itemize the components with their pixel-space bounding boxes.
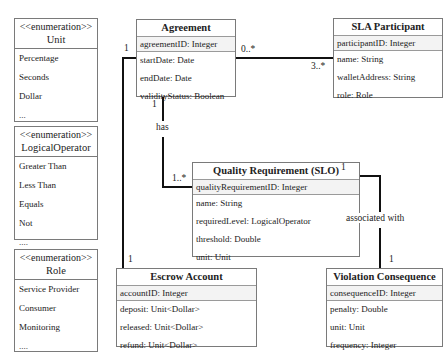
enum-literal: Percentage	[15, 49, 97, 68]
class-attribute: released: Unit<Dollar>	[117, 319, 256, 337]
enum-logical-operator: <<enumeration>> LogicalOperator Greater …	[14, 126, 98, 240]
class-attribute: role: Role	[334, 87, 442, 105]
class-agreement: Agreement agreementID: Integer startDate…	[136, 19, 236, 97]
class-id-attribute: consequenceID: Integer	[327, 286, 442, 301]
enum-literal: Equals	[15, 195, 97, 214]
class-quality-requirement: Quality Requirement (SLO) qualityRequire…	[192, 162, 360, 257]
enum-literal: Dollar	[15, 87, 97, 106]
enum-literal: Less Than	[15, 176, 97, 195]
class-id-attribute: accountID: Integer	[117, 286, 256, 301]
class-id-attribute: qualityRequirementID: Integer	[193, 180, 359, 195]
class-attribute: endDate: Date	[137, 70, 235, 88]
enum-stereotype: <<enumeration>>	[15, 19, 97, 33]
enum-name: Unit	[15, 33, 97, 49]
enum-literal: Not	[15, 214, 97, 233]
class-name: Quality Requirement (SLO)	[193, 163, 359, 180]
enum-stereotype: <<enumeration>>	[15, 127, 97, 141]
association-agreement-escrow	[123, 58, 136, 268]
multiplicity-quality-violation-target: 1	[389, 254, 394, 264]
enum-name: LogicalOperator	[15, 141, 97, 157]
enum-literal: ...	[15, 106, 97, 125]
class-attribute: name: String	[334, 51, 442, 69]
enum-literal: Greater Than	[15, 157, 97, 176]
association-label-has: has	[155, 122, 170, 132]
enum-literal: Monitoring	[15, 318, 97, 337]
class-attribute: frequency: Integer	[327, 337, 442, 355]
multiplicity-agreement-quality-source: 1	[152, 99, 157, 109]
enum-unit: <<enumeration>> Unit Percentage Seconds …	[14, 18, 98, 122]
class-attribute: threshold: Double	[193, 231, 359, 249]
association-label-associated-with: associated with	[345, 213, 405, 223]
enum-literal: Seconds	[15, 68, 97, 87]
enum-name: Role	[15, 264, 97, 280]
class-name: Violation Consequence	[327, 269, 442, 286]
class-id-attribute: participantID: Integer	[334, 36, 442, 51]
class-attribute: walletAddress: String	[334, 69, 442, 87]
class-name: Escrow Account	[117, 269, 256, 286]
class-attribute: unit: Unit	[193, 249, 359, 267]
enum-stereotype: <<enumeration>>	[15, 250, 97, 264]
multiplicity-agreement-quality-target: 1..*	[172, 173, 186, 183]
class-name: Agreement	[137, 20, 235, 37]
class-attribute: startDate: Date	[137, 52, 235, 70]
class-name: SLA Participant	[334, 19, 442, 36]
class-attribute: deposit: Unit<Dollar>	[117, 301, 256, 319]
class-id-attribute: agreementID: Integer	[137, 37, 235, 52]
class-attribute: refund: Unit<Dollar>	[117, 337, 256, 355]
class-escrow-account: Escrow Account accountID: Integer deposi…	[116, 268, 257, 347]
enum-role: <<enumeration>> Role Service Provider Co…	[14, 249, 98, 352]
multiplicity-quality-violation-source: 1	[341, 162, 346, 172]
class-attribute: name: String	[193, 195, 359, 213]
multiplicity-agreement-participant-source: 0..*	[241, 44, 255, 54]
class-sla-participant: SLA Participant participantID: Integer n…	[333, 18, 443, 98]
enum-literal: Consumer	[15, 299, 97, 318]
class-attribute: requiredLevel: LogicalOperator	[193, 213, 359, 231]
enum-literal: Service Provider	[15, 280, 97, 299]
class-attribute: penalty: Double	[327, 301, 442, 319]
multiplicity-agreement-escrow-target: 1	[128, 254, 133, 264]
enum-literal: ....	[15, 337, 97, 356]
multiplicity-agreement-escrow-source: 1	[124, 43, 129, 53]
class-attribute: unit: Unit	[327, 319, 442, 337]
class-violation-consequence: Violation Consequence consequenceID: Int…	[326, 268, 443, 347]
association-quality-violation	[359, 176, 380, 212]
multiplicity-agreement-participant-target: 3..*	[311, 61, 325, 71]
